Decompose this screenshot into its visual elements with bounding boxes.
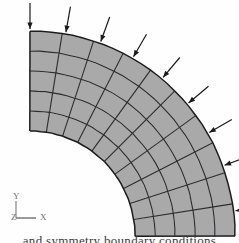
mesh-element [213, 204, 235, 236]
mesh-element [30, 31, 62, 53]
mesh-element [30, 71, 56, 93]
figure-caption: and symmetry boundary conditions [0, 234, 239, 243]
pressure-arrow-head [209, 127, 216, 133]
pressure-arrow [163, 58, 180, 78]
pressure-arrow [101, 17, 110, 41]
triad-z-label: Z [11, 212, 17, 222]
pressure-arrow [189, 86, 209, 103]
pressure-arrow-head [101, 34, 106, 41]
pressure-arrow [209, 120, 232, 133]
pressure-arrow-head [134, 50, 140, 57]
pressure-arrow-head [27, 23, 32, 30]
mesh-element [30, 91, 53, 112]
pressure-arrow [225, 156, 239, 165]
pressure-arrow [65, 7, 71, 33]
coordinate-triad: Y Z X [11, 191, 47, 222]
mesh-element [30, 51, 59, 73]
pressure-arrow [27, 3, 32, 29]
finite-element-mesh-diagram: Y Z X [0, 0, 239, 243]
mesh-element [193, 207, 215, 236]
pressure-arrow [235, 207, 239, 212]
pressure-arrow-head [235, 207, 239, 212]
triad-y-label: Y [13, 191, 20, 201]
mesh-element [154, 213, 175, 236]
pressure-arrow [134, 34, 147, 57]
pressure-arrow-head [225, 161, 232, 166]
triad-x-label: X [40, 212, 47, 222]
figure-canvas: Y Z X and symmetry boundary conditions [0, 0, 239, 243]
mesh-element [173, 210, 195, 236]
pressure-arrow-head [65, 25, 70, 32]
